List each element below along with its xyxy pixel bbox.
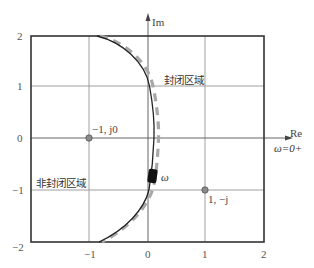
re-axis-label: Re [290, 127, 302, 139]
omega-start-label: ω=0+ [274, 142, 302, 154]
x-tick-1: 1 [202, 248, 208, 260]
point-label-1-minus-j: 1, −j [208, 193, 228, 205]
y-tick-minus1: −1 [12, 184, 24, 196]
y-tick-2: 2 [17, 30, 23, 42]
dashed-locus [100, 36, 159, 242]
y-tick-0: 0 [17, 132, 23, 144]
not-enclosed-region-label: 非封闭区域 [36, 177, 87, 189]
x-tick-minus1: −1 [84, 248, 96, 260]
omega-direction-arrow-icon [147, 168, 158, 183]
im-axis-arrow-icon [146, 13, 151, 21]
enclosed-region-label: 封闭区域 [164, 74, 205, 86]
im-axis-label: Im [152, 16, 165, 28]
nyquist-diagram: −1, j0 1, −j 封闭区域 非封闭区域 Re Im ω ω=0+ 2 1… [0, 0, 314, 268]
omega-label: ω [161, 171, 169, 183]
plot-frame [31, 36, 264, 242]
y-tick-1: 1 [17, 80, 23, 92]
x-tick-0: 0 [145, 248, 151, 260]
grid [31, 36, 264, 242]
point-minus1-j0 [86, 135, 92, 141]
x-tick-2: 2 [261, 248, 267, 260]
point-label-minus1-j0: −1, j0 [92, 123, 118, 135]
y-tick-minus2: −2 [12, 241, 24, 253]
